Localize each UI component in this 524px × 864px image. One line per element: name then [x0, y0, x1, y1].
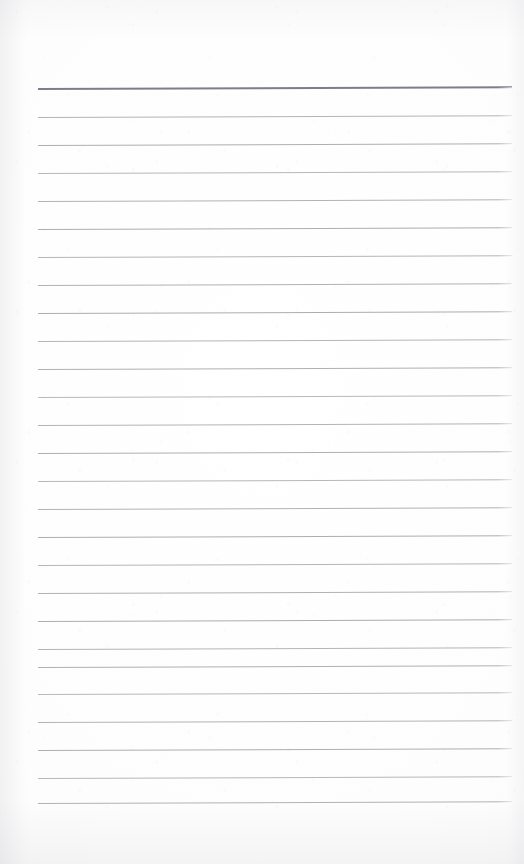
rule-line [38, 143, 512, 146]
rule-line [38, 451, 512, 454]
rule-line [38, 255, 512, 258]
rule-line [38, 692, 512, 695]
rule-line [38, 311, 512, 314]
rule-line [38, 479, 512, 482]
header-rule-line [38, 86, 512, 90]
rule-line [38, 199, 512, 202]
rule-line [38, 227, 512, 230]
rule-line [38, 535, 512, 538]
rule-line [38, 776, 512, 779]
rule-line [38, 507, 512, 510]
rule-line [38, 283, 512, 286]
scanned-page: Blank ruled notepad page [0, 0, 524, 864]
rule-line [38, 339, 512, 342]
rule-line [38, 171, 512, 174]
rule-line [38, 647, 512, 650]
rule-line [38, 591, 512, 594]
rule-line [38, 665, 512, 668]
rule-line [38, 563, 512, 566]
rule-line [38, 801, 512, 804]
rule-line [38, 115, 512, 118]
rule-line [38, 720, 512, 723]
rule-line [38, 619, 512, 622]
rule-line [38, 367, 512, 370]
rule-line [38, 395, 512, 398]
rule-line [38, 748, 512, 751]
ruled-line-area [0, 0, 524, 864]
rule-line [38, 423, 512, 426]
